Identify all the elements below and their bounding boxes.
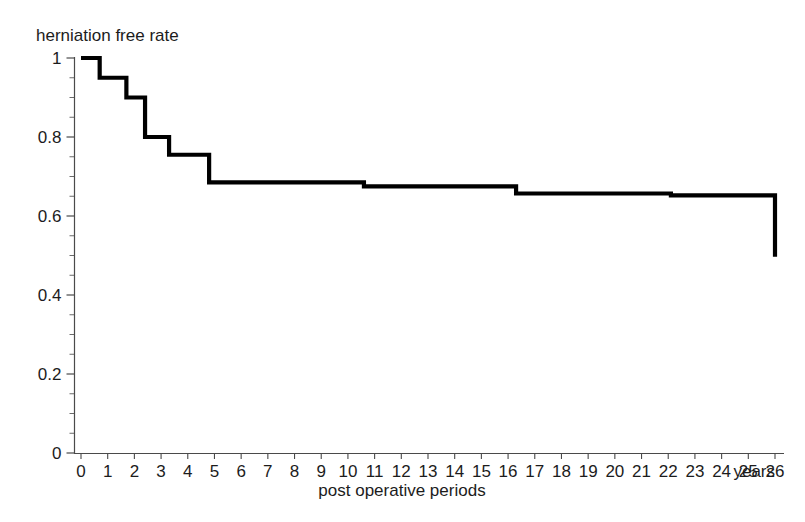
- x-tick-label: 3: [156, 462, 165, 481]
- x-tick-label: 1: [103, 462, 112, 481]
- y-tick-label: 0.4: [38, 286, 62, 305]
- x-tick-label: 11: [366, 462, 384, 481]
- x-tick-label: 16: [499, 462, 518, 481]
- x-axis-title: post operative periods: [318, 481, 485, 500]
- y-tick-label: 0.6: [38, 207, 62, 226]
- y-axis-title-group: herniation free rate: [36, 26, 179, 45]
- x-tick-label: 14: [445, 462, 464, 481]
- y-tick-label: 0.8: [38, 128, 62, 147]
- x-tick-label: 15: [472, 462, 491, 481]
- x-tick-label: 20: [605, 462, 624, 481]
- x-tick-label: 22: [659, 462, 678, 481]
- y-axis-tick-labels: 00.20.40.60.81: [38, 49, 62, 463]
- x-tick-label: 19: [579, 462, 598, 481]
- x-axis-unit-label: years: [733, 462, 775, 481]
- x-tick-label: 5: [210, 462, 219, 481]
- x-tick-label: 4: [183, 462, 192, 481]
- survival-step-curve: [81, 58, 775, 257]
- x-tick-label: 23: [685, 462, 704, 481]
- y-tick-label: 1: [52, 49, 61, 68]
- y-axis-minor-ticks: [70, 78, 75, 434]
- x-tick-label: 2: [130, 462, 139, 481]
- x-tick-label: 18: [552, 462, 571, 481]
- x-tick-label: 12: [392, 462, 411, 481]
- x-tick-label: 17: [525, 462, 544, 481]
- herniation-free-rate-chart: herniation free rate 00.20.40.60.81 0123…: [0, 0, 805, 522]
- x-tick-label: 0: [76, 462, 85, 481]
- x-tick-label: 10: [338, 462, 357, 481]
- y-tick-label: 0.2: [38, 365, 62, 384]
- x-axis-tick-labels: 0123456789101112131415161718192021222324…: [76, 462, 784, 481]
- x-tick-label: 13: [419, 462, 438, 481]
- x-tick-label: 24: [712, 462, 731, 481]
- y-tick-label: 0: [52, 444, 61, 463]
- y-axis-title: herniation free rate: [36, 26, 179, 45]
- x-tick-label: 7: [263, 462, 272, 481]
- x-tick-label: 6: [236, 462, 245, 481]
- x-tick-label: 21: [632, 462, 651, 481]
- x-tick-label: 8: [290, 462, 299, 481]
- x-tick-label: 9: [316, 462, 325, 481]
- chart-figure: herniation free rate 00.20.40.60.81 0123…: [0, 0, 805, 522]
